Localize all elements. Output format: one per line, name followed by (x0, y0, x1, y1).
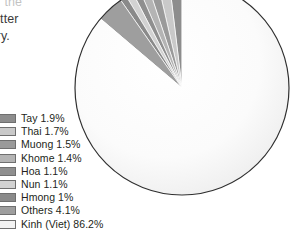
legend-item[interactable]: Hmong 1% (0, 191, 150, 204)
legend-swatch (0, 206, 16, 215)
legend-item[interactable]: Khome 1.4% (0, 152, 150, 165)
legend-swatch (0, 220, 16, 229)
legend-swatch (0, 140, 16, 149)
legend-item-label: Nun 1.1% (21, 179, 68, 190)
legend-item-label: Muong 1.5% (21, 139, 80, 150)
legend-swatch (0, 114, 16, 123)
legend-swatch (0, 193, 16, 202)
legend-swatch (0, 127, 16, 136)
legend-item-label: Others 4.1% (21, 205, 80, 216)
legend-item[interactable]: Nun 1.1% (0, 178, 150, 191)
legend-swatch (0, 154, 16, 163)
legend-item[interactable]: Kinh (Viet) 86.2% (0, 218, 150, 231)
chart-legend: Tay 1.9% Thai 1.7% Muong 1.5% Khome 1.4%… (0, 112, 150, 231)
chart-page: for the better tory. Tay 1.9% T (0, 0, 293, 246)
legend-swatch (0, 167, 16, 176)
legend-item-label: Hmong 1% (21, 192, 73, 203)
legend-item[interactable]: Muong 1.5% (0, 138, 150, 151)
legend-item-label: Hoa 1.1% (21, 166, 68, 177)
legend-item[interactable]: Others 4.1% (0, 204, 150, 217)
legend-item[interactable]: Hoa 1.1% (0, 165, 150, 178)
legend-item[interactable]: Thai 1.7% (0, 125, 150, 138)
legend-item[interactable]: Tay 1.9% (0, 112, 150, 125)
legend-item-label: Thai 1.7% (21, 126, 69, 137)
legend-swatch (0, 180, 16, 189)
legend-item-label: Khome 1.4% (21, 153, 82, 164)
legend-item-label: Kinh (Viet) 86.2% (21, 219, 103, 230)
legend-item-label: Tay 1.9% (21, 113, 65, 124)
